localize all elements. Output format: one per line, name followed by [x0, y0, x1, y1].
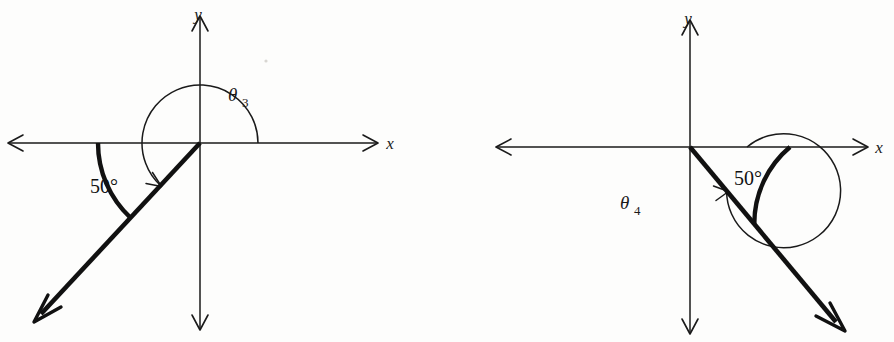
y-axis-label: y	[192, 5, 202, 24]
theta-4-label: θ	[620, 192, 629, 213]
terminal-ray-line	[41, 143, 200, 314]
y-axis: y	[192, 5, 208, 330]
terminal-ray-line	[690, 147, 836, 322]
paper-speck	[264, 59, 267, 62]
theta-4-diagram: x y θ 4 50°	[447, 0, 894, 342]
theta-3-diagram: x y θ 3 50°	[0, 0, 447, 342]
reference-angle-arc-50: 50°	[90, 143, 130, 218]
theta-3-label: θ	[228, 84, 237, 105]
rotation-angle-arc-theta4: θ 4	[620, 134, 841, 248]
x-axis-label: x	[385, 134, 394, 153]
reference-angle-label: 50°	[734, 167, 762, 189]
theta-4-subscript: 4	[634, 203, 641, 218]
x-axis-label: x	[874, 138, 883, 157]
figure-root: x y θ 3 50°	[0, 0, 894, 342]
theta-3-subscript: 3	[242, 95, 249, 110]
y-axis-label: y	[682, 9, 692, 28]
terminal-ray-group	[34, 143, 200, 322]
reference-angle-label: 50°	[90, 175, 118, 197]
y-axis: y	[682, 9, 698, 334]
x-axis: x	[8, 134, 394, 153]
